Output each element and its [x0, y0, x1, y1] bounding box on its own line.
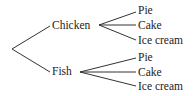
edge-fish-pie	[80, 58, 136, 72]
node-chicken-cake: Cake	[138, 19, 162, 32]
edge-fish-icecream	[80, 72, 136, 86]
edge-chicken-icecream	[99, 25, 136, 40]
edge-chicken-pie	[99, 12, 136, 25]
node-fish-icecream: Ice cream	[138, 80, 183, 93]
node-fish-pie: Pie	[138, 51, 153, 64]
node-fish-cake: Cake	[138, 66, 162, 79]
node-chicken-icecream: Ice cream	[138, 34, 183, 47]
node-fish: Fish	[52, 65, 72, 78]
edge-root-fish	[12, 49, 50, 72]
node-chicken: Chicken	[52, 19, 90, 32]
node-chicken-pie: Pie	[138, 4, 153, 17]
edge-root-chicken	[12, 26, 50, 49]
